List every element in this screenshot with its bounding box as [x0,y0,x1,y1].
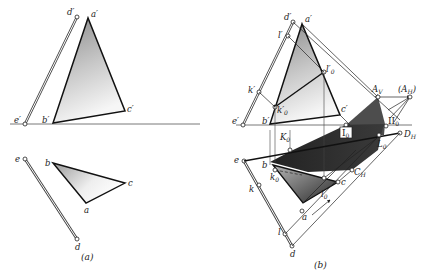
caption-b: (b) [314,260,327,270]
label-c: c [128,178,133,188]
label-l-prime: l′ [278,30,283,40]
label-a-prime-b: a′ [305,14,312,24]
label-AH: (AH) [398,84,416,95]
label-b-b: b [262,160,267,170]
caption-a: (a) [81,252,94,262]
panel-b: d′ a′ l′ l′0 k′ k′0 e′ b′ c′ AV (AH) II0… [232,12,417,270]
label-c-prime: c′ [127,104,134,114]
label-e-prime: e′ [14,115,21,125]
label-L0: L0 [376,139,387,150]
label-d: d [75,242,81,252]
triangle-abc-front [53,18,125,123]
label-b-prime: b′ [42,115,49,125]
label-e-b: e [234,155,239,165]
label-k0-b: k0 [270,172,279,183]
panel-a: d′ a′ e′ b′ c′ e b c a d (a) [10,7,200,262]
label-k-b: k [249,184,254,194]
label-d-prime: d′ [67,7,74,17]
label-d-prime-b: d′ [284,12,291,22]
triangle-abc-top [53,163,125,203]
label-l0-prime: l′0 [326,64,335,75]
label-c-prime-b: c′ [341,104,348,114]
label-e-prime-b: e′ [232,116,239,126]
label-Av: AV [371,84,383,95]
label-k-prime: k′ [248,85,255,95]
label-c-b: c [341,177,346,187]
label-b-prime-b: b′ [262,116,269,126]
label-l-b: l [278,227,281,237]
label-a: a [84,205,89,215]
shadow-projection-diagram: d′ a′ e′ b′ c′ e b c a d (a) [0,0,429,274]
label-d-b: d [290,249,296,259]
label-e: e [15,154,20,164]
label-DH: DH [403,129,417,140]
label-a-prime: a′ [91,9,98,19]
label-CH: CH [354,167,367,178]
shadow-h-plane [270,124,384,172]
label-a-b: a [302,212,307,222]
label-b: b [45,158,50,168]
label-K0: K0 [279,132,290,143]
